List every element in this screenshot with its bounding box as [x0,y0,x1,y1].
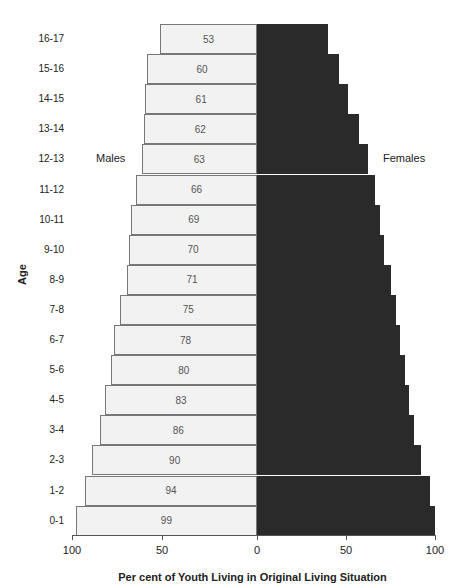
male-bar: 86 [100,415,257,445]
age-label: 3-4 [22,424,64,435]
male-bar: 99 [76,506,257,536]
age-label: 7-8 [22,304,64,315]
male-bar: 61 [145,84,257,114]
age-label: 9-10 [22,244,64,255]
female-bar [257,175,375,205]
male-bar: 66 [136,175,257,205]
x-tick-label: 100 [63,544,81,556]
male-bar: 53 [160,24,257,54]
male-bar: 60 [147,54,257,84]
x-tick [162,535,163,540]
female-bar [257,205,380,235]
x-axis-line [72,535,436,536]
x-tick-label: 50 [340,544,352,556]
female-bar [257,265,391,295]
age-label: 4-5 [22,394,64,405]
population-pyramid-chart: 16-175315-166014-156113-146212-136311-12… [0,0,465,588]
female-bar [257,235,384,265]
female-bar [257,506,435,536]
age-label: 0-1 [22,515,64,526]
x-axis-title: Per cent of Youth Living in Original Liv… [0,571,465,583]
y-axis-title: Age [16,264,28,285]
female-bar [257,445,421,475]
male-bar: 62 [144,114,257,144]
female-bar [257,144,368,174]
female-bar [257,385,409,415]
age-label: 5-6 [22,364,64,375]
male-bar: 94 [85,476,257,506]
females-label: Females [383,152,425,164]
male-bar: 90 [92,445,257,475]
female-bar [257,54,339,84]
female-bar [257,114,359,144]
x-tick-label: 50 [156,544,168,556]
female-bar [257,84,348,114]
female-bar [257,355,405,385]
x-tick-label: 100 [426,544,444,556]
male-bar: 83 [105,385,257,415]
x-tick [257,535,258,540]
female-bar [257,476,430,506]
male-bar: 71 [127,265,257,295]
age-label: 1-2 [22,485,64,496]
age-label: 6-7 [22,334,64,345]
male-bar: 63 [142,144,257,174]
age-label: 10-11 [22,214,64,225]
male-bar: 70 [129,235,257,265]
x-tick [72,535,73,540]
female-bar [257,415,414,445]
age-label: 12-13 [22,153,64,164]
female-bar [257,295,396,325]
age-label: 8-9 [22,274,64,285]
female-bar [257,325,400,355]
age-label: 13-14 [22,123,64,134]
age-label: 11-12 [22,184,64,195]
age-label: 14-15 [22,93,64,104]
age-label: 2-3 [22,454,64,465]
males-label: Males [96,152,125,164]
male-bar: 80 [111,355,257,385]
male-bar: 75 [120,295,257,325]
x-tick [435,535,436,540]
male-bar: 78 [114,325,257,355]
age-label: 16-17 [22,33,64,44]
male-bar: 69 [131,205,257,235]
age-label: 15-16 [22,63,64,74]
x-tick-label: 0 [254,544,260,556]
x-tick [346,535,347,540]
female-bar [257,24,328,54]
